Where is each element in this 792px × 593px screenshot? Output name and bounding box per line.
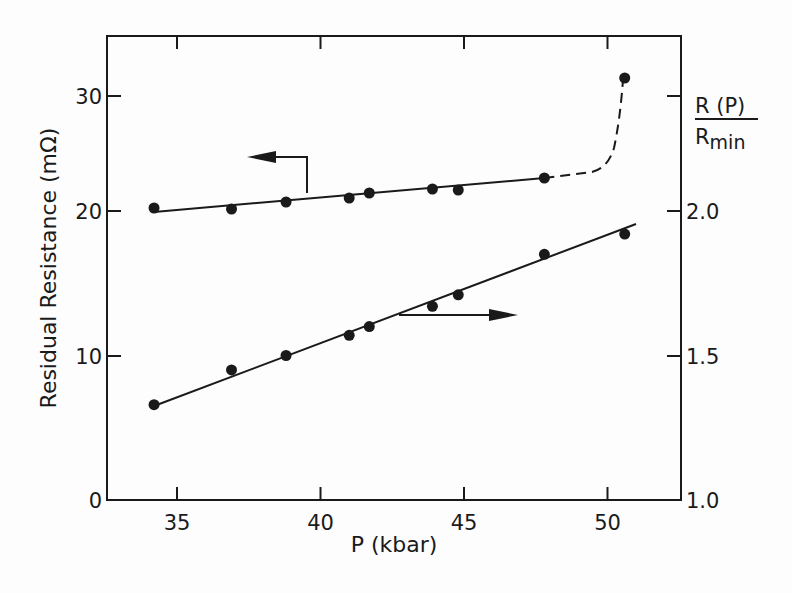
x-tick-label: 35 — [164, 511, 191, 535]
y-right-tick-label: 1.5 — [686, 345, 719, 369]
fit-lines — [154, 80, 636, 406]
data-points — [149, 73, 631, 411]
chart: 35404550 0102030 1.01.52.0 P (kbar) Resi… — [0, 0, 792, 593]
left-arrow-icon — [247, 151, 276, 163]
y-axis-left-label: Residual Resistance (mΩ) — [36, 128, 61, 409]
ratio-point — [453, 289, 464, 300]
resistance-point — [149, 203, 160, 214]
y-right-label-denominator: Rmin — [695, 125, 745, 153]
resistance-point — [364, 188, 375, 199]
resistance-point — [453, 185, 464, 196]
ratio-point — [344, 330, 355, 341]
ratio-point — [364, 321, 375, 332]
y-right-tick-label: 2.0 — [686, 200, 719, 224]
ratio-point — [281, 350, 292, 361]
axis-indicator-arrows — [247, 151, 518, 321]
resistance-point — [226, 204, 237, 215]
y-tick-label: 20 — [75, 200, 102, 224]
ratio-point — [149, 399, 160, 410]
ratio-fit-line — [154, 224, 636, 406]
resistance-point — [344, 193, 355, 204]
x-tick-label: 50 — [594, 511, 621, 535]
right-arrow-icon — [489, 309, 518, 321]
resistance-point — [281, 197, 292, 208]
y-tick-label: 10 — [75, 345, 102, 369]
y-axis-right-label: R (P) Rmin — [695, 94, 758, 153]
x-axis-ticks: 35404550 — [164, 36, 621, 535]
ratio-point — [427, 301, 438, 312]
resistance-point — [427, 184, 438, 195]
resistance-point — [539, 173, 550, 184]
x-axis-label: P (kbar) — [351, 532, 438, 557]
y-axis-left-ticks: 0102030 — [75, 85, 121, 513]
ratio-point — [226, 364, 237, 375]
x-tick-label: 45 — [451, 511, 478, 535]
y-right-tick-label: 1.0 — [686, 489, 719, 513]
ratio-point — [619, 229, 630, 240]
y-tick-label: 30 — [75, 85, 102, 109]
x-tick-label: 40 — [307, 511, 334, 535]
ratio-point — [539, 249, 550, 260]
y-tick-label: 0 — [89, 489, 102, 513]
y-right-label-numerator: R (P) — [695, 94, 745, 118]
plot-border — [107, 36, 681, 500]
plot-frame — [107, 36, 681, 500]
resistance-dashed-curve — [544, 80, 623, 178]
y-axis-right-ticks: 1.01.52.0 — [667, 96, 719, 513]
resistance-point — [619, 73, 630, 84]
